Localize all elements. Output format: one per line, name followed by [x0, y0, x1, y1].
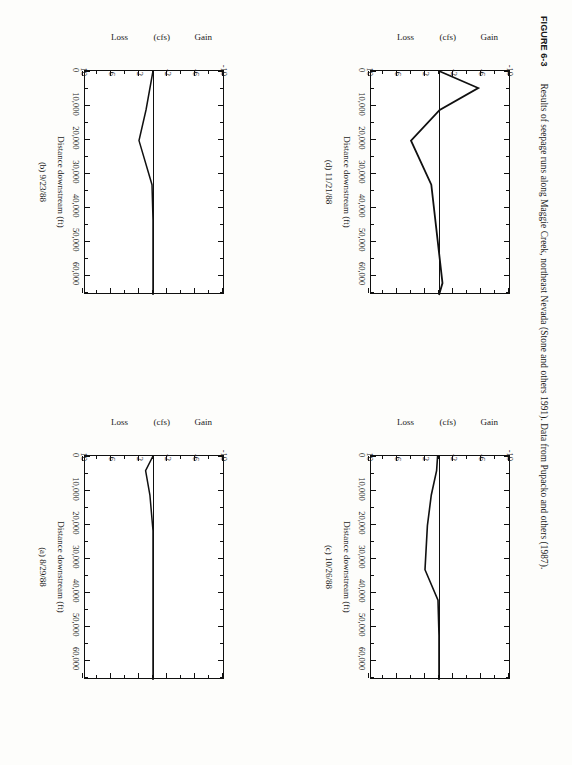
y-minor-tick-a: [152, 675, 153, 678]
y-tick-b: [166, 288, 167, 293]
y-tick-b: [194, 288, 195, 293]
x-tick-label-b: 10,000: [71, 92, 80, 115]
x-axis-title-b: Distance downstream (ft): [56, 70, 66, 294]
x-tick-label-c: 60,000: [357, 647, 366, 670]
y-axis-label-gain-a: Gain: [195, 417, 213, 427]
y-minor-tick-b: [180, 71, 181, 74]
x-minor-tick-c: [506, 609, 509, 610]
y-tick-label-b: 10: [80, 50, 89, 76]
y-tick-a: [110, 673, 111, 678]
y-tick-label-d: 10: [366, 50, 375, 76]
x-tick-label-a: 60,000: [71, 647, 80, 670]
x-tick-label-b: 20,000: [71, 126, 80, 149]
y-axis-label-units-a: (cfs): [154, 417, 171, 427]
x-minor-tick-d: [371, 88, 374, 89]
x-minor-tick-c: [371, 677, 374, 678]
y-tick-label-d: -2: [450, 50, 459, 76]
y-minor-tick-b: [180, 290, 181, 293]
y-minor-tick-b: [152, 290, 153, 293]
scanned-page: Distance downstream (ft) (b) 9/23/88 010…: [0, 0, 572, 765]
x-tick-label-c: 30,000: [357, 545, 366, 568]
y-axis-label-loss-c: Loss: [397, 417, 414, 427]
y-minor-tick-b: [208, 290, 209, 293]
y-tick-d: [508, 288, 509, 293]
x-minor-tick-d: [506, 88, 509, 89]
x-minor-tick-a: [220, 609, 223, 610]
x-tick-a: [218, 524, 223, 525]
x-tick-label-c: 10,000: [357, 477, 366, 500]
y-tick-b: [138, 288, 139, 293]
x-tick-a: [85, 592, 90, 593]
x-minor-tick-b: [220, 88, 223, 89]
x-tick-label-b: 40,000: [71, 194, 80, 217]
chart-panel-d: Distance downstream (ft) (d) 11/21/88 01…: [308, 26, 514, 308]
y-minor-tick-d: [382, 290, 383, 293]
y-axis-label-loss-d: Loss: [397, 32, 414, 42]
x-tick-b: [85, 139, 90, 140]
series-line-a: [83, 456, 223, 680]
y-minor-tick-a: [208, 456, 209, 459]
y-minor-tick-c: [410, 456, 411, 459]
x-axis-title-a: Distance downstream (ft): [56, 455, 66, 679]
y-minor-tick-d: [410, 290, 411, 293]
x-minor-tick-a: [85, 677, 88, 678]
x-tick-c: [371, 626, 376, 627]
x-tick-c: [371, 660, 376, 661]
x-tick-label-d: 50,000: [357, 228, 366, 251]
y-minor-tick-b: [124, 71, 125, 74]
x-tick-c: [371, 592, 376, 593]
y-tick-label-b: -6: [192, 50, 201, 76]
x-tick-label-b: 60,000: [71, 262, 80, 285]
y-tick-label-a: 6: [108, 435, 117, 461]
x-tick-b: [85, 207, 90, 208]
y-tick-c: [368, 673, 369, 678]
x-tick-d: [504, 139, 509, 140]
panel-caption-d: (d) 11/21/88: [324, 70, 334, 294]
y-axis-label-units-b: (cfs): [154, 32, 171, 42]
y-tick-b: [82, 288, 83, 293]
y-tick-d: [396, 288, 397, 293]
x-tick-label-d: 60,000: [357, 262, 366, 285]
y-tick-b: [222, 288, 223, 293]
series-line-c: [369, 456, 509, 680]
y-tick-label-a: 2: [136, 435, 145, 461]
x-minor-tick-a: [85, 643, 88, 644]
y-tick-a: [166, 673, 167, 678]
x-tick-d: [504, 173, 509, 174]
x-tick-a: [85, 558, 90, 559]
x-minor-tick-a: [85, 609, 88, 610]
x-tick-label-a: 50,000: [71, 613, 80, 636]
x-tick-label-c: 40,000: [357, 579, 366, 602]
x-tick-label-d: 40,000: [357, 194, 366, 217]
x-tick-b: [218, 173, 223, 174]
x-minor-tick-d: [371, 156, 374, 157]
x-minor-tick-d: [371, 258, 374, 259]
y-axis-label-gain-d: Gain: [481, 32, 499, 42]
figure-caption-text: Results of seepage runs along Maggie Cre…: [539, 83, 549, 569]
x-tick-d: [371, 173, 376, 174]
plot-area-a: [84, 455, 224, 679]
x-tick-b: [218, 241, 223, 242]
y-minor-tick-b: [124, 290, 125, 293]
x-minor-tick-a: [220, 473, 223, 474]
y-tick-label-b: -10: [220, 50, 229, 76]
y-minor-tick-a: [152, 456, 153, 459]
x-tick-label-b: 30,000: [71, 160, 80, 183]
y-tick-c: [452, 673, 453, 678]
x-tick-label-b: 50,000: [71, 228, 80, 251]
x-minor-tick-a: [85, 575, 88, 576]
y-minor-tick-b: [96, 290, 97, 293]
x-tick-d: [504, 241, 509, 242]
y-minor-tick-a: [124, 675, 125, 678]
y-minor-tick-d: [466, 71, 467, 74]
y-tick-label-b: 2: [136, 50, 145, 76]
panel-caption-c: (c) 10/26/88: [324, 455, 334, 679]
x-tick-label-a: 40,000: [71, 579, 80, 602]
y-tick-d: [452, 288, 453, 293]
x-tick-b: [218, 207, 223, 208]
x-minor-tick-c: [371, 609, 374, 610]
x-tick-d: [504, 105, 509, 106]
x-minor-tick-c: [506, 643, 509, 644]
y-minor-tick-d: [466, 290, 467, 293]
x-tick-d: [504, 207, 509, 208]
